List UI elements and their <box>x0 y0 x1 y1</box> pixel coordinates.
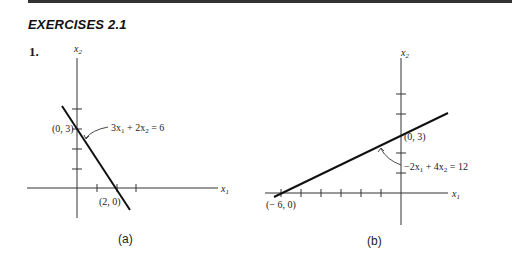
svg-text:x1: x1 <box>220 183 229 196</box>
caption-b: (b) <box>367 234 382 248</box>
graph-a <box>27 58 218 218</box>
graphs: x2 x1 (0, 3) (2, 0) 3x1 + 2x2 = 6 x2 x1 … <box>0 0 512 257</box>
svg-text:x1: x1 <box>451 188 460 201</box>
graph-a-leader <box>86 127 108 138</box>
graph-b-leader <box>381 149 401 165</box>
graph-b-equation: −2x1 + 4x2 = 12 <box>404 161 468 174</box>
svg-text:x2: x2 <box>73 43 82 56</box>
graph-b-point-03: (0, 3) <box>404 131 426 143</box>
graph-b-line <box>274 113 448 197</box>
caption-a: (a) <box>118 232 133 246</box>
graph-b-point-m60: (− 6, 0) <box>266 199 296 211</box>
graph-a-point-20: (2, 0) <box>99 196 121 208</box>
graph-a-labels: x2 x1 (0, 3) (2, 0) 3x1 + 2x2 = 6 <box>52 43 229 208</box>
graph-a-point-03: (0, 3) <box>52 123 74 135</box>
graph-a-equation: 3x1 + 2x2 = 6 <box>111 122 164 135</box>
